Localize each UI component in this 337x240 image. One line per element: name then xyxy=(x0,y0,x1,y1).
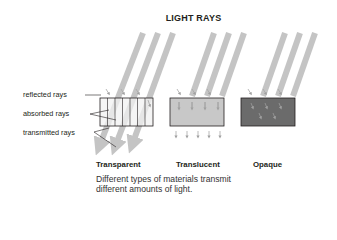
label-absorbed-rays: absorbed rays xyxy=(23,109,69,118)
transparent-material xyxy=(100,98,153,126)
translucent-rays xyxy=(192,33,244,96)
material-translucent: Translucent xyxy=(176,160,220,169)
opaque-rays xyxy=(263,33,315,96)
caption-line-2: different amounts of light. xyxy=(96,184,231,194)
material-transparent: Transparent xyxy=(96,160,141,169)
label-transmitted-rays: transmitted rays xyxy=(23,128,75,137)
transparent-rays xyxy=(99,33,173,147)
material-opaque: Opaque xyxy=(253,160,282,169)
translucent-material xyxy=(170,98,224,126)
caption: Different types of materials transmit di… xyxy=(96,174,231,194)
translucent-transmitted-arrows xyxy=(176,131,220,137)
opaque-material xyxy=(241,98,295,126)
caption-line-1: Different types of materials transmit xyxy=(96,174,231,184)
label-reflected-rays: reflected rays xyxy=(23,90,67,99)
